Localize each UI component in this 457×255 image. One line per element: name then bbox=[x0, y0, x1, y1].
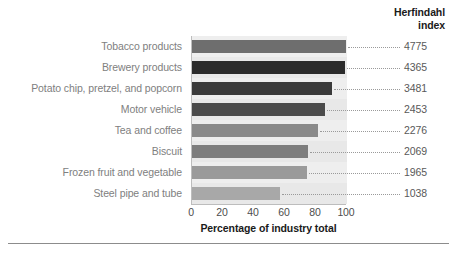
category-label: Potato chip, pretzel, and popcorn bbox=[31, 78, 182, 99]
leader-line bbox=[347, 68, 400, 69]
bottom-divider bbox=[8, 243, 449, 244]
plot-area bbox=[191, 36, 347, 204]
herfindahl-index-header: Herfindahl index bbox=[353, 6, 445, 32]
herfindahl-value: 2276 bbox=[404, 120, 450, 141]
x-axis-title: Percentage of industry total bbox=[191, 222, 346, 234]
herfindahl-index-bar-chart: Herfindahl index Tobacco productsBrewery… bbox=[0, 0, 457, 255]
bar bbox=[192, 82, 332, 95]
bar bbox=[192, 124, 318, 137]
x-axis-line bbox=[191, 204, 346, 205]
leader-line bbox=[327, 110, 400, 111]
leader-line bbox=[282, 194, 400, 195]
category-label: Tea and coffee bbox=[115, 120, 182, 141]
bar bbox=[192, 166, 307, 179]
herfindahl-value: 4775 bbox=[404, 36, 450, 57]
herfindahl-value: 1965 bbox=[404, 162, 450, 183]
herfindahl-value: 1038 bbox=[404, 183, 450, 204]
herfindahl-index-header-line1: Herfindahl bbox=[353, 6, 445, 19]
category-label: Biscuit bbox=[152, 141, 182, 162]
category-label: Steel pipe and tube bbox=[93, 183, 182, 204]
herfindahl-value: 3481 bbox=[404, 78, 450, 99]
category-label: Motor vehicle bbox=[121, 99, 182, 120]
plot-wrapper: Tobacco productsBrewery productsPotato c… bbox=[0, 36, 457, 204]
category-label: Brewery products bbox=[102, 57, 182, 78]
herfindahl-value-column: 47754365348124532276206919651038 bbox=[404, 36, 454, 204]
category-label: Frozen fruit and vegetable bbox=[63, 162, 182, 183]
leader-line bbox=[348, 47, 400, 48]
herfindahl-value: 2453 bbox=[404, 99, 450, 120]
x-axis-tick-label: 100 bbox=[326, 206, 366, 218]
bar bbox=[192, 40, 346, 53]
bar bbox=[192, 145, 308, 158]
leader-line bbox=[320, 131, 400, 132]
category-label: Tobacco products bbox=[101, 36, 182, 57]
herfindahl-index-header-line2: index bbox=[353, 19, 445, 32]
herfindahl-value: 2069 bbox=[404, 141, 450, 162]
leader-line bbox=[310, 152, 400, 153]
bar bbox=[192, 103, 325, 116]
bar bbox=[192, 61, 345, 74]
bar bbox=[192, 187, 280, 200]
category-label-column: Tobacco productsBrewery productsPotato c… bbox=[8, 36, 186, 204]
herfindahl-value: 4365 bbox=[404, 57, 450, 78]
leader-line bbox=[309, 173, 400, 174]
leader-line bbox=[334, 89, 401, 90]
